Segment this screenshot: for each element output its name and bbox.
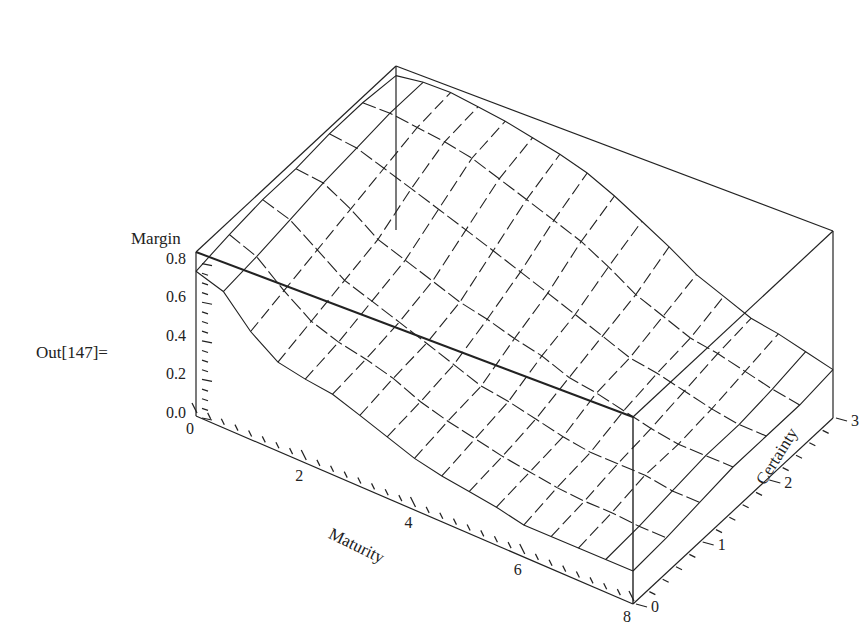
tick-label: 2 (295, 467, 303, 485)
tick-label: 6 (514, 561, 522, 579)
surface-mesh (196, 76, 833, 571)
tick-label: 8 (623, 608, 631, 626)
output-cell-label: Out[147]= (36, 343, 108, 363)
tick-label: 2 (784, 474, 792, 492)
tick-label: 0 (651, 598, 659, 616)
tick-label: 0.6 (166, 288, 186, 306)
tick-label: 3 (851, 412, 859, 430)
tick-label: 0.0 (166, 404, 186, 422)
surface-plot (0, 0, 867, 632)
bounding-box (196, 66, 833, 604)
z-axis-title: Margin (131, 229, 181, 249)
tick-label: 4 (405, 514, 413, 532)
tick-label: 0.8 (166, 250, 186, 268)
tick-label: 0 (186, 420, 194, 438)
front-box-edges (196, 252, 633, 604)
tick-label: 0.4 (166, 327, 186, 345)
tick-label: 0.2 (166, 365, 186, 383)
tick-label: 1 (718, 536, 726, 554)
